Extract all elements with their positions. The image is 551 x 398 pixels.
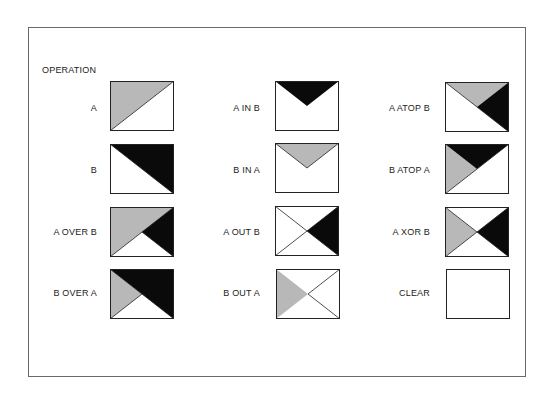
label-b-over-a: B OVER A <box>40 288 97 298</box>
label-a-xor-b: A XOR B <box>360 227 430 237</box>
box-a-in-b <box>275 81 339 131</box>
diagram-frame <box>28 27 526 377</box>
label-b-out-a: B OUT A <box>200 288 260 298</box>
label-b-in-a: B IN A <box>200 165 260 175</box>
box-a-xor-b <box>445 207 509 257</box>
box-clear <box>446 269 510 319</box>
box-b-over-a <box>110 269 174 319</box>
box-b-out-a <box>276 269 340 319</box>
box-b-in-a <box>275 143 339 193</box>
label-a-out-b: A OUT B <box>200 227 260 237</box>
box-a <box>110 81 174 131</box>
diagram-heading: OPERATION <box>42 65 96 75</box>
label-a-over-b: A OVER B <box>40 227 97 237</box>
label-b-atop-a: B ATOP A <box>360 165 430 175</box>
label-a: A <box>40 103 97 113</box>
box-a-over-b <box>110 207 174 257</box>
box-a-out-b <box>275 206 339 256</box>
box-a-atop-b <box>445 82 509 132</box>
label-clear: CLEAR <box>360 288 430 298</box>
label-b: B <box>40 165 97 175</box>
box-b-atop-a <box>445 144 509 194</box>
box-b <box>110 144 174 194</box>
label-a-atop-b: A ATOP B <box>360 103 430 113</box>
label-a-in-b: A IN B <box>200 103 260 113</box>
